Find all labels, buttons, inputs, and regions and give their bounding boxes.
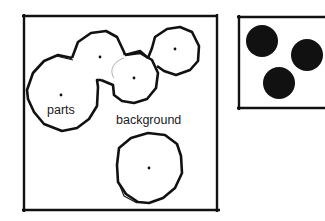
- blob-3: [263, 67, 295, 99]
- background-label: background: [116, 113, 181, 127]
- centroid-dot: [133, 77, 136, 80]
- part-large-left-outline: [27, 55, 101, 131]
- blobs: [246, 25, 323, 99]
- centroid-dot: [148, 167, 151, 170]
- blob-1: [246, 25, 278, 57]
- part-middle-outline: [101, 53, 158, 103]
- figure: parts background: [0, 0, 325, 221]
- left-panel: parts background: [22, 14, 220, 212]
- centroid-dot: [60, 94, 63, 97]
- part-top-middle-outline: [72, 31, 125, 58]
- right-panel: [237, 15, 325, 110]
- centroid-dot: [99, 56, 102, 59]
- parts-label: parts: [47, 103, 75, 117]
- centroid-dot: [174, 48, 177, 51]
- blob-2: [291, 39, 323, 71]
